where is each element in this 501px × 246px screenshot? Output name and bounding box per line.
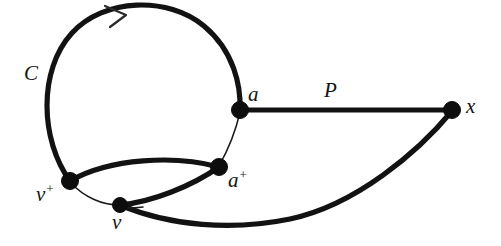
edge-v-to-x	[120, 111, 452, 225]
edge-v-to-aplus	[120, 167, 219, 205]
vertex-a-plus	[211, 159, 228, 176]
label-vertex-v-plus-base: v	[36, 182, 45, 206]
edge-a-to-aplus-thin	[219, 112, 240, 166]
label-vertex-x: x	[466, 96, 475, 117]
graph-canvas	[0, 0, 501, 246]
label-path-P: P	[324, 80, 337, 101]
label-vertex-v-plus-superscript: +	[45, 181, 53, 196]
label-vertex-a-plus-superscript: +	[239, 167, 247, 182]
vertex-v-plus	[62, 173, 79, 190]
label-vertex-v-plus: v+	[36, 182, 54, 205]
label-vertex-v: v	[112, 212, 121, 233]
edge-vplus-to-v-thin	[71, 183, 119, 205]
edge-cycle-arc	[47, 5, 240, 181]
label-vertex-a-plus: a+	[228, 168, 247, 191]
vertex-a	[232, 102, 249, 119]
label-vertex-a: a	[248, 84, 259, 105]
label-cycle-C: C	[24, 63, 38, 84]
vertex-x	[444, 102, 461, 119]
label-vertex-a-plus-base: a	[228, 168, 239, 192]
graph-diagram-figure: C P a x a+ v+ v	[0, 0, 501, 246]
